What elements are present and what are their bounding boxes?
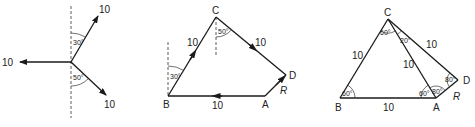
resultant-arrow xyxy=(276,78,283,85)
angle-arc-b xyxy=(168,66,184,70)
force-label-lower: 10 xyxy=(104,99,116,110)
side-bc-arrow xyxy=(190,53,194,60)
angle-label-30: 30° xyxy=(73,39,84,46)
side-bc-label: 10 xyxy=(352,50,364,61)
side-ab-label: 10 xyxy=(383,102,395,113)
vector-diagrams: 10 10 10 30° 50° C B A D 10 10 10 R 30° … xyxy=(0,0,475,127)
point-d-label: D xyxy=(463,75,470,86)
resultant-label: R xyxy=(453,91,460,102)
point-b-label: B xyxy=(163,99,170,110)
point-a-label: A xyxy=(433,102,440,113)
force-label-left: 10 xyxy=(2,57,14,68)
angle-label-50: 50° xyxy=(73,74,84,81)
angle-a-left-label: 60° xyxy=(419,90,430,97)
angle-arc-c-right xyxy=(397,31,401,34)
angle-c-right-label: 20° xyxy=(400,37,411,44)
force-label-upper: 10 xyxy=(99,4,111,15)
side-cd xyxy=(388,19,458,80)
resultant-label: R xyxy=(280,85,287,96)
angle-b-label: 30° xyxy=(170,73,181,80)
angle-a-right-label: 80° xyxy=(432,88,443,95)
point-d-label: D xyxy=(289,70,296,81)
point-a-label: A xyxy=(262,99,269,110)
diagram-1-force-system: 10 10 10 30° 50° xyxy=(2,4,116,118)
side-cd-label: 10 xyxy=(255,37,267,48)
side-bc-label: 10 xyxy=(187,37,199,48)
angle-d-label: 80° xyxy=(445,76,456,83)
point-c-label: C xyxy=(212,5,219,16)
diagram-2-force-polygon: C B A D 10 10 10 R 30° 50° xyxy=(163,5,296,111)
angle-c-left-label: 60° xyxy=(380,29,391,36)
side-ca-label: 10 xyxy=(403,59,415,70)
angle-c-label: 50° xyxy=(218,28,229,35)
side-cd-label: 10 xyxy=(426,39,438,50)
side-cd-arrow xyxy=(249,44,254,48)
point-b-label: B xyxy=(335,102,342,113)
diagram-3-triangle-construction: C B A D 10 10 10 10 R 60° 60° 20° 60° 80… xyxy=(335,7,470,113)
angle-b-label: 60° xyxy=(342,90,353,97)
side-ab-label: 10 xyxy=(212,100,224,111)
point-c-label: C xyxy=(384,7,391,18)
angle-arc-30 xyxy=(71,33,86,37)
